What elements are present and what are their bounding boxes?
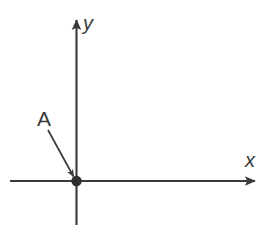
point-a-label: A xyxy=(37,107,51,130)
coordinate-axes-figure: x y A xyxy=(0,0,280,232)
x-axis-label: x xyxy=(244,149,256,171)
point-a-group: A xyxy=(37,107,82,186)
y-axis-label: y xyxy=(81,12,94,34)
y-axis-group: y xyxy=(77,12,95,225)
point-a-dot xyxy=(71,176,81,186)
figure-canvas: x y A xyxy=(0,0,280,232)
x-axis-group: x xyxy=(10,149,256,181)
leader-arrow-line xyxy=(48,130,74,177)
leader-arrow-group xyxy=(48,130,74,177)
